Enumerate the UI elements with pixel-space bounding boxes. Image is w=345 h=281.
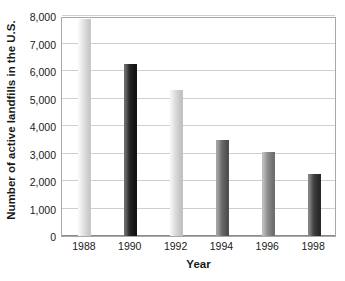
y-tick-label-3000: 3,000 bbox=[22, 149, 56, 161]
y-axis-title: Number of active landfills in the U.S. bbox=[0, 0, 22, 240]
plot-area bbox=[61, 17, 336, 237]
y-axis-title-text: Number of active landfills in the U.S. bbox=[5, 20, 17, 219]
y-tick-label-1000: 1,000 bbox=[22, 204, 56, 216]
y-tick-label-7000: 7,000 bbox=[22, 39, 56, 51]
bar-1990 bbox=[124, 64, 137, 236]
x-tick-label-1988: 1988 bbox=[61, 240, 107, 252]
y-tick-label-5000: 5,000 bbox=[22, 94, 56, 106]
x-axis-tick-labels: 198819901992199419961998 bbox=[61, 240, 336, 256]
gridline-8000 bbox=[62, 15, 335, 16]
bar-1992 bbox=[170, 90, 183, 236]
bars-layer bbox=[62, 18, 335, 236]
bar-1988 bbox=[78, 19, 91, 236]
y-tick-label-8000: 8,000 bbox=[22, 11, 56, 23]
y-tick-label-4000: 4,000 bbox=[22, 121, 56, 133]
y-tick-label-0: 0 bbox=[22, 231, 56, 243]
x-tick-label-1992: 1992 bbox=[153, 240, 199, 252]
y-tick-label-6000: 6,000 bbox=[22, 66, 56, 78]
bar-1998 bbox=[308, 174, 321, 236]
y-axis-tick-labels: 01,0002,0003,0004,0005,0006,0007,0008,00… bbox=[22, 11, 60, 243]
x-tick-label-1994: 1994 bbox=[198, 240, 244, 252]
y-tick-label-2000: 2,000 bbox=[22, 176, 56, 188]
bar-chart-figure: Number of active landfills in the U.S. 0… bbox=[0, 0, 345, 281]
x-tick-label-1990: 1990 bbox=[107, 240, 153, 252]
x-tick-label-1998: 1998 bbox=[290, 240, 336, 252]
x-axis-title: Year bbox=[61, 258, 336, 270]
x-tick-label-1996: 1996 bbox=[244, 240, 290, 252]
bar-1996 bbox=[262, 152, 275, 236]
bar-1994 bbox=[216, 140, 229, 236]
